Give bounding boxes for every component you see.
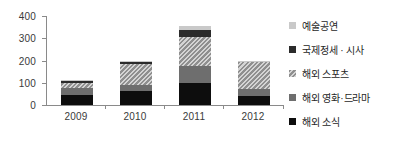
y-axis-label-300: 300: [19, 33, 36, 44]
bar-2010-segment-overseas-sports: [120, 64, 152, 85]
legend-item-overseas-news: 해외 소식: [289, 109, 393, 133]
y-axis-line: [46, 16, 47, 105]
x-axis-label-2012: 2012: [241, 111, 264, 122]
bar-2012: [238, 61, 270, 106]
bar-2012-segment-overseas-film: [238, 89, 270, 96]
bar-2010-segment-arts-performance: [120, 61, 152, 63]
chart-page: 400 300 200 100 0 2009 2010 2011 2012: [0, 0, 395, 141]
y-tick-200: 200: [42, 61, 46, 62]
y-axis-label-200: 200: [19, 55, 36, 66]
bar-2012-segment-overseas-sports: [238, 62, 270, 89]
plot-area: 400 300 200 100 0 2009 2010 2011 2012: [46, 16, 284, 105]
bar-2010: [120, 61, 152, 106]
legend-swatch-overseas-film-icon: [289, 94, 296, 101]
y-tick-100: 100: [42, 83, 46, 84]
x-axis-line: [46, 105, 284, 106]
legend-swatch-overseas-news-icon: [289, 118, 296, 125]
legend-swatch-overseas-sports-icon: [289, 70, 296, 77]
x-axis-label-2010: 2010: [123, 111, 146, 122]
legend-label-overseas-film: 해외 영화·드라마: [302, 90, 370, 105]
bar-2012-segment-world-affairs: [238, 61, 270, 62]
x-axis-label-2009: 2009: [64, 111, 87, 122]
bar-2009-segment-overseas-film: [61, 88, 93, 95]
bar-2011-segment-overseas-film: [179, 66, 211, 83]
bar-2010-segment-overseas-news: [120, 91, 152, 105]
bar-2011-segment-overseas-news: [179, 83, 211, 105]
legend-label-overseas-news: 해외 소식: [302, 114, 340, 129]
x-tick-mark-2: [164, 105, 165, 109]
bar-2009-segment-world-affairs: [61, 81, 93, 83]
bar-2011-segment-overseas-sports: [179, 37, 211, 66]
bar-2010-segment-overseas-film: [120, 85, 152, 91]
y-axis-label-400: 400: [19, 11, 36, 22]
bar-2009-segment-overseas-sports: [61, 83, 93, 89]
y-axis-label-0: 0: [30, 100, 36, 111]
y-tick-0: 0: [42, 105, 46, 106]
legend-swatch-arts-performance-icon: [289, 22, 296, 29]
bar-2009-segment-overseas-news: [61, 95, 93, 105]
legend-item-arts-performance: 예술공연: [289, 13, 393, 37]
y-tick-300: 300: [42, 38, 46, 39]
bar-2009-segment-arts-performance: [61, 80, 93, 81]
bar-2009: [61, 80, 93, 105]
chart-legend: 예술공연 국제정세 · 시사 해외 스포츠 해외 영화·드라마 해외 소식: [289, 13, 393, 133]
bar-2011-segment-arts-performance: [179, 26, 211, 30]
bar-2011: [179, 26, 211, 105]
bar-2010-segment-world-affairs: [120, 62, 152, 64]
x-tick-mark-1: [105, 105, 106, 109]
legend-item-overseas-film: 해외 영화·드라마: [289, 85, 393, 109]
legend-label-world-affairs: 국제정세 · 시사: [302, 42, 364, 57]
legend-label-overseas-sports: 해외 스포츠: [302, 66, 349, 81]
y-axis-label-100: 100: [19, 77, 36, 88]
bar-2011-segment-world-affairs: [179, 30, 211, 37]
legend-swatch-world-affairs-icon: [289, 46, 296, 53]
legend-label-arts-performance: 예술공연: [302, 18, 338, 33]
legend-item-overseas-sports: 해외 스포츠: [289, 61, 393, 85]
legend-item-world-affairs: 국제정세 · 시사: [289, 37, 393, 61]
y-tick-400: 400: [42, 16, 46, 17]
x-axis-label-2011: 2011: [183, 111, 205, 122]
bar-2012-segment-overseas-news: [238, 96, 270, 105]
x-tick-mark-3: [223, 105, 224, 109]
x-tick-mark-4: [283, 105, 284, 109]
